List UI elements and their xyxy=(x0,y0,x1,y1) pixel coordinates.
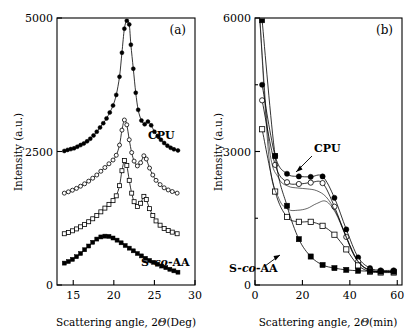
data-point xyxy=(83,182,87,186)
data-point xyxy=(136,108,140,112)
data-point xyxy=(134,91,138,95)
data-point xyxy=(107,162,111,166)
data-point xyxy=(83,248,87,252)
data-point xyxy=(154,219,158,223)
data-point xyxy=(101,121,105,125)
panel-b-cpu-arrow xyxy=(296,156,312,172)
data-point xyxy=(139,201,143,205)
data-point xyxy=(151,214,155,218)
data-point xyxy=(320,262,325,267)
data-point xyxy=(87,220,91,224)
scoaa-part-3: -AA xyxy=(168,256,190,269)
data-point xyxy=(284,171,289,176)
y-tick-label: 3000 xyxy=(223,146,251,159)
data-point xyxy=(308,219,313,224)
data-point xyxy=(122,118,126,122)
data-point xyxy=(98,125,102,129)
data-point xyxy=(175,232,179,236)
data-point xyxy=(95,214,99,218)
data-point xyxy=(127,22,131,26)
data-point xyxy=(308,180,313,185)
panel-a-x-ticks: 15202530 xyxy=(66,280,202,302)
panel-a-x-axis-title: Scattering angle, 2Θ(Deg) xyxy=(56,316,196,328)
scoaa-b-part-1: S- xyxy=(229,262,242,275)
data-point xyxy=(120,169,124,173)
data-point xyxy=(296,237,301,242)
data-point xyxy=(332,232,337,237)
data-point xyxy=(172,269,176,273)
data-point xyxy=(158,223,162,227)
data-point xyxy=(129,43,133,47)
data-point xyxy=(320,223,325,228)
data-point xyxy=(130,191,134,195)
data-point xyxy=(148,207,152,211)
data-point xyxy=(111,199,115,203)
x-tick-label: 30 xyxy=(188,289,202,302)
data-point xyxy=(70,229,74,233)
y-tick-label: 6000 xyxy=(223,12,251,25)
data-point xyxy=(344,247,349,252)
data-point xyxy=(111,158,115,162)
x-tick-label: 15 xyxy=(66,289,80,302)
series-line-open-circle xyxy=(262,100,394,271)
data-point xyxy=(66,260,70,264)
data-point xyxy=(74,227,78,231)
data-point xyxy=(166,188,170,192)
data-point xyxy=(356,268,361,273)
data-point xyxy=(95,130,99,134)
data-point xyxy=(114,93,118,97)
data-point xyxy=(74,255,78,259)
data-point xyxy=(103,206,107,210)
xlab-b-units: (min) xyxy=(369,316,397,328)
data-point xyxy=(308,174,313,179)
data-point xyxy=(114,153,118,157)
data-point xyxy=(70,257,74,261)
data-point xyxy=(139,119,143,123)
panel-a-svg: 15202530 025005000 (a) CPU S-co-AA Inten… xyxy=(0,0,208,335)
panel-b-svg: 0204060 030006000 (b) CPU S-co-AA Intens… xyxy=(208,0,416,335)
data-point xyxy=(123,243,127,247)
data-point xyxy=(125,19,129,23)
data-point xyxy=(62,232,66,236)
data-point xyxy=(332,195,337,200)
panel-a-tag: (a) xyxy=(169,23,186,37)
data-point xyxy=(144,157,148,161)
xlab-a-prefix: Scattering angle, 2 xyxy=(56,316,158,328)
data-point xyxy=(170,230,174,234)
data-point xyxy=(154,178,158,182)
data-point xyxy=(170,190,174,194)
panel-a-y-axis-title: Intensity (a.u.) xyxy=(12,113,24,191)
data-point xyxy=(62,191,66,195)
data-point xyxy=(99,235,103,239)
data-point xyxy=(284,180,289,185)
data-point xyxy=(132,159,136,163)
data-point xyxy=(87,179,91,183)
data-point xyxy=(95,173,99,177)
data-point xyxy=(103,166,107,170)
x-tick-label: 60 xyxy=(390,289,404,302)
x-tick-label: 20 xyxy=(295,289,309,302)
data-point xyxy=(296,219,301,224)
panel-b-label-scoaa: S-co-AA xyxy=(229,262,278,275)
panel-b: 0204060 030006000 (b) CPU S-co-AA Intens… xyxy=(208,0,416,335)
data-point xyxy=(115,238,119,242)
data-point xyxy=(79,225,83,229)
data-point xyxy=(125,163,129,167)
data-point xyxy=(131,249,135,253)
figure-container: 15202530 025005000 (a) CPU S-co-AA Inten… xyxy=(0,0,416,335)
data-point xyxy=(131,67,135,71)
data-point xyxy=(120,51,124,55)
x-tick-label: 25 xyxy=(147,289,161,302)
xlab-b-prefix: Scattering angle, 2 xyxy=(259,316,361,328)
y-tick-label: 0 xyxy=(46,279,53,292)
data-point xyxy=(296,181,301,186)
xlab-a-units: (Deg) xyxy=(166,316,196,328)
x-tick-label: 40 xyxy=(343,289,357,302)
data-point xyxy=(332,265,337,270)
data-point xyxy=(344,267,349,272)
data-point xyxy=(66,230,70,234)
data-point xyxy=(99,210,103,214)
scoaa-b-part-2: co xyxy=(242,262,256,275)
panel-a-label-cpu: CPU xyxy=(148,129,175,142)
data-point xyxy=(166,229,170,233)
